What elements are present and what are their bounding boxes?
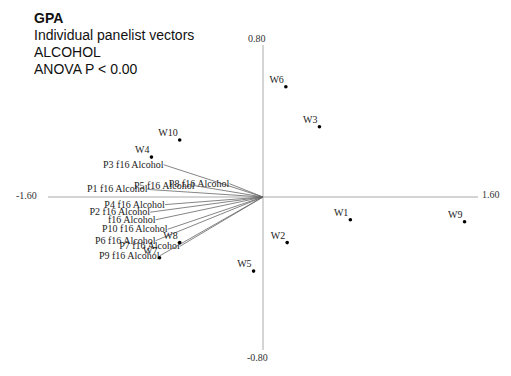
point-marker (178, 241, 182, 245)
panelist-vectors: P3 f16 AlcoholP8 f16 AlcoholP5 f16 Alcoh… (87, 159, 263, 261)
point-marker (150, 155, 154, 159)
point-label: W10 (158, 127, 177, 138)
point-marker (285, 241, 289, 245)
point-label: W8 (163, 230, 177, 241)
point-label: W6 (269, 74, 283, 85)
point-marker (284, 85, 288, 89)
point-label: W1 (334, 207, 348, 218)
point-label: W4 (135, 144, 149, 155)
point-marker (178, 138, 182, 142)
vector-label: P10 f16 Alcohol (102, 223, 168, 234)
point-label: W2 (271, 230, 285, 241)
gpa-plot: -1.60 1.60 0.80 -0.80 P3 f16 AlcoholP8 f… (0, 0, 511, 376)
point-marker (252, 269, 256, 273)
x-min-label: -1.60 (16, 190, 37, 201)
point-marker (463, 220, 467, 224)
point-marker (349, 218, 353, 222)
vector-label: P1 f16 Alcohol (87, 183, 148, 194)
x-max-label: 1.60 (482, 189, 500, 200)
y-min-label: -0.80 (247, 352, 268, 363)
y-max-label: 0.80 (248, 33, 266, 44)
point-marker (158, 256, 162, 260)
point-label: W9 (448, 209, 462, 220)
point-marker (318, 125, 322, 129)
vector-label: P3 f16 Alcohol (103, 159, 164, 170)
vector-line (156, 197, 264, 220)
point-label: W3 (303, 114, 317, 125)
point-label: W5 (237, 258, 251, 269)
point-label: W7 (143, 245, 157, 256)
